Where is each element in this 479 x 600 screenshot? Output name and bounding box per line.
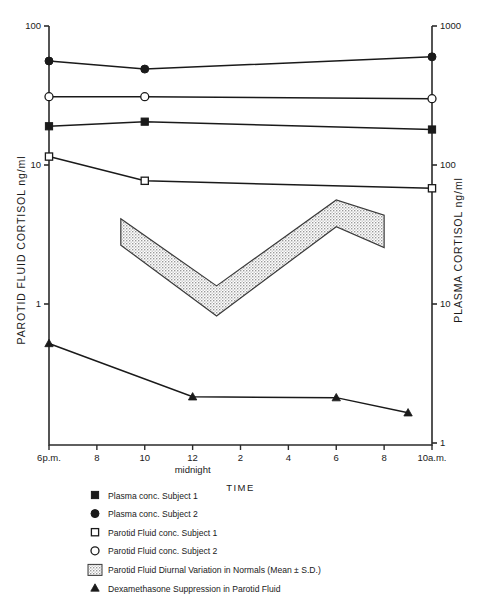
y2-axis-tick-label: 1000 (440, 20, 461, 31)
legend-item: Plasma conc. Subject 2 (91, 509, 198, 519)
legend-item-label: Plasma conc. Subject 2 (108, 509, 198, 519)
x-axis-title: TIME (226, 482, 254, 493)
legend-stipple-swatch-icon (88, 564, 102, 575)
data-point (141, 93, 149, 101)
x-axis-tick-label: 6 (334, 452, 339, 463)
data-point (428, 53, 436, 61)
data-point (45, 93, 53, 101)
legend-open-square-icon (91, 529, 98, 536)
legend-item-label: Plasma conc. Subject 1 (108, 491, 198, 501)
x-axis-tick-label: 2 (238, 452, 243, 463)
chart-figure: 10010110001001016p.m.81012246810a.m.midn… (0, 0, 479, 600)
y2-axis-tick-label: 1 (440, 437, 445, 448)
y-axis-tick-label: 10 (30, 159, 41, 170)
legend-open-circle-icon (91, 547, 99, 555)
legend-item-label: Parotid Fluid conc. Subject 1 (108, 528, 218, 538)
data-point (428, 185, 435, 192)
x-axis-tick-label: 12 (187, 452, 198, 463)
legend-item-label: Dexamethasone Suppression in Parotid Flu… (108, 584, 281, 594)
data-point (141, 177, 148, 184)
legend-item: Plasma conc. Subject 1 (91, 491, 198, 501)
data-point (45, 153, 52, 160)
y-axis-tick-label: 1 (36, 298, 41, 309)
data-point (141, 65, 149, 73)
y2-axis-tick-label: 100 (440, 159, 456, 170)
data-point (428, 126, 435, 133)
legend-item: Parotid Fluid Diurnal Variation in Norma… (88, 564, 321, 575)
legend-item-label: Parotid Fluid Diurnal Variation in Norma… (108, 565, 321, 575)
data-point (45, 57, 53, 65)
legend-item: Parotid Fluid conc. Subject 1 (91, 528, 217, 538)
legend-item: Parotid Fluid conc. Subject 2 (91, 546, 218, 556)
x-axis-midnight-label: midnight (175, 464, 211, 475)
y2-axis-title: PLASMA CORTISOL ng/ml (452, 177, 464, 323)
x-axis-tick-label: 10a.m. (417, 452, 446, 463)
legend-item-label: Parotid Fluid conc. Subject 2 (108, 546, 218, 556)
cortisol-diurnal-chart: 10010110001001016p.m.81012246810a.m.midn… (0, 0, 479, 600)
data-point (428, 95, 436, 103)
legend-filled-circle-icon (91, 510, 99, 518)
x-axis-tick-label: 10 (139, 452, 150, 463)
data-point (141, 118, 148, 125)
data-point (45, 123, 52, 130)
x-axis-tick-label: 8 (381, 452, 386, 463)
y2-axis-tick-label: 10 (440, 298, 451, 309)
x-axis-tick-label: 6p.m. (37, 452, 61, 463)
legend-item: Dexamethasone Suppression in Parotid Flu… (91, 584, 281, 594)
legend-filled-square-icon (91, 491, 98, 498)
y-axis-tick-label: 100 (25, 20, 41, 31)
chart-background (0, 0, 479, 600)
x-axis-tick-label: 4 (286, 452, 291, 463)
y-axis-title: PAROTID FLUID CORTISOL ng/ml (15, 156, 27, 345)
x-axis-tick-label: 8 (94, 452, 99, 463)
